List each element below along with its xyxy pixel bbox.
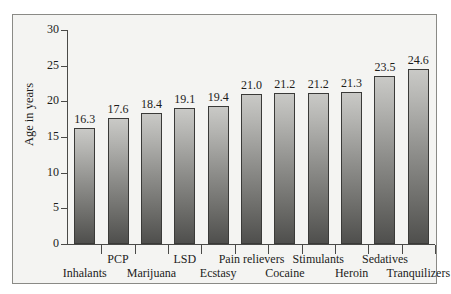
y-tick-label: 30 bbox=[13, 23, 59, 35]
bar-value-label: 19.4 bbox=[200, 91, 237, 103]
bars-container: 16.317.618.419.119.421.021.221.221.323.5… bbox=[68, 30, 435, 244]
bar-chart-figure: Age in years 051015202530 16.317.618.419… bbox=[0, 0, 451, 294]
chart-frame: Age in years 051015202530 16.317.618.419… bbox=[12, 14, 437, 284]
bar bbox=[408, 69, 429, 244]
bar bbox=[74, 128, 95, 244]
y-tick-label: 0 bbox=[13, 237, 59, 249]
bar-group: 23.5 bbox=[374, 30, 395, 244]
bar-group: 21.0 bbox=[241, 30, 262, 244]
x-tick-mark bbox=[435, 245, 436, 254]
x-category-label: Sedatives bbox=[340, 253, 430, 265]
bar-value-label: 24.6 bbox=[400, 54, 437, 66]
bar bbox=[308, 93, 329, 244]
bar-value-label: 16.3 bbox=[66, 113, 103, 125]
bar-group: 21.3 bbox=[341, 30, 362, 244]
bar-group: 19.4 bbox=[208, 30, 229, 244]
bar bbox=[341, 92, 362, 244]
bar-value-label: 17.6 bbox=[100, 103, 137, 115]
bar bbox=[141, 113, 162, 244]
bar-group: 17.6 bbox=[108, 30, 129, 244]
bar-group: 24.6 bbox=[408, 30, 429, 244]
bar-value-label: 18.4 bbox=[133, 98, 170, 110]
bar-value-label: 21.2 bbox=[300, 78, 337, 90]
x-category-label: Tranquilizers bbox=[373, 267, 451, 279]
y-tick-label: 10 bbox=[13, 166, 59, 178]
bar bbox=[241, 94, 262, 244]
bar-value-label: 23.5 bbox=[366, 61, 403, 73]
bar-value-label: 21.3 bbox=[333, 77, 370, 89]
bar-value-label: 19.1 bbox=[166, 93, 203, 105]
y-tick-label: 25 bbox=[13, 59, 59, 71]
bar-value-label: 21.2 bbox=[266, 78, 303, 90]
bar bbox=[174, 108, 195, 244]
bar bbox=[108, 118, 129, 244]
y-tick-label: 20 bbox=[13, 94, 59, 106]
bar bbox=[374, 76, 395, 244]
bar bbox=[208, 106, 229, 244]
bar-value-label: 21.0 bbox=[233, 79, 270, 91]
bar-group: 19.1 bbox=[174, 30, 195, 244]
y-tick-label: 15 bbox=[13, 130, 59, 142]
y-axis-title: Age in years bbox=[22, 55, 37, 175]
bar-group: 21.2 bbox=[308, 30, 329, 244]
bar-group: 16.3 bbox=[74, 30, 95, 244]
y-tick-label: 5 bbox=[13, 201, 59, 213]
bar bbox=[274, 93, 295, 244]
x-axis-spine bbox=[67, 244, 435, 245]
bar-group: 18.4 bbox=[141, 30, 162, 244]
bar-group: 21.2 bbox=[274, 30, 295, 244]
